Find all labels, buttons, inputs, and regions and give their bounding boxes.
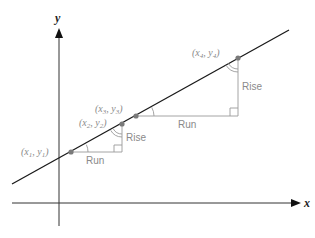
run-label-small: Run bbox=[86, 155, 104, 166]
triangle-small bbox=[71, 124, 122, 152]
slope-line bbox=[12, 30, 289, 184]
y-axis: y bbox=[53, 11, 63, 226]
rise-label-large: Rise bbox=[242, 81, 262, 92]
x-axis-arrow-icon bbox=[291, 199, 301, 207]
x-axis: x bbox=[12, 196, 310, 210]
point-1 bbox=[68, 149, 73, 154]
point-2 bbox=[119, 121, 124, 126]
point-2-label: (x2, y2) bbox=[79, 117, 107, 130]
point-4-label: (x4, y4) bbox=[192, 47, 220, 60]
point-3 bbox=[133, 113, 138, 118]
y-axis-arrow-icon bbox=[55, 28, 63, 38]
point-4 bbox=[235, 55, 240, 60]
y-axis-label: y bbox=[53, 11, 61, 25]
point-3-label: (x3, y3) bbox=[95, 103, 123, 116]
rise-label-small: Rise bbox=[126, 132, 146, 143]
run-label-large: Run bbox=[178, 119, 196, 130]
x-axis-label: x bbox=[303, 196, 310, 210]
point-1-label: (x1, y1) bbox=[21, 146, 49, 159]
slope-diagram: y x (x1, y1) (x2, y bbox=[0, 0, 315, 238]
